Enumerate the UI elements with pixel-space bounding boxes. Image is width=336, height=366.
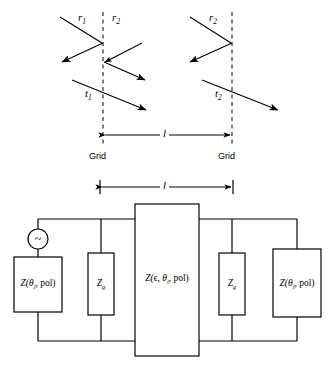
label-r2-left: r2 bbox=[112, 12, 120, 26]
label-r1: r1 bbox=[78, 12, 86, 26]
ray-diagram-group bbox=[60, 12, 278, 146]
circuit-spacing-label: l bbox=[160, 180, 169, 191]
circuit-group bbox=[14, 180, 321, 356]
label-r2-right: r2 bbox=[209, 12, 217, 26]
ray-reflected-r1 bbox=[62, 43, 103, 62]
label-z-slab: Z(ϵ, θi, pol) bbox=[129, 274, 205, 285]
label-t2: t2 bbox=[215, 88, 222, 102]
ray-incident-r2-left bbox=[105, 43, 142, 62]
ray-reflected-r2-left bbox=[104, 62, 145, 80]
label-t1: t1 bbox=[85, 88, 92, 102]
label-z-right-termination: Z(θi, pol) bbox=[273, 279, 321, 290]
ac-source-symbol: ~ bbox=[28, 232, 48, 246]
label-z-grid-left: Zg bbox=[88, 279, 114, 290]
ray-reflected-r2-right bbox=[190, 43, 232, 62]
grid-label-left: Grid bbox=[89, 152, 106, 161]
grid-label-right: Grid bbox=[218, 152, 235, 161]
label-z-left-termination: Z(θi, pol) bbox=[14, 279, 62, 290]
label-z-grid-right: Zg bbox=[219, 279, 245, 290]
ray-transmitted-t1 bbox=[72, 80, 146, 110]
ray-transmitted-t2 bbox=[202, 80, 278, 110]
ray-spacing-label: l bbox=[160, 128, 169, 139]
figure-container: r1 r2 r2 t1 t2 l Grid Grid l ~ Z(θi, pol… bbox=[0, 0, 336, 366]
